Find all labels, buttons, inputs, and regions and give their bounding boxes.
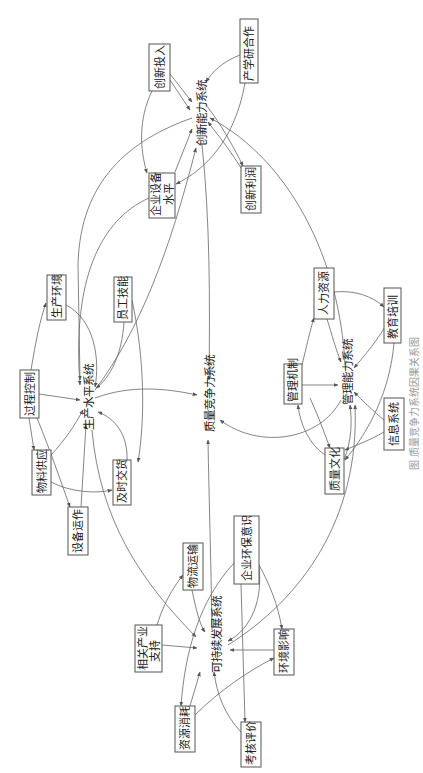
edge-innov-to-quality xyxy=(202,145,209,380)
edge-equip-to-innov xyxy=(175,129,192,172)
management-system-label: 管理能力系统 xyxy=(341,338,355,405)
svg-text:创新利润: 创新利润 xyxy=(244,167,258,211)
svg-text:生产环境: 生产环境 xyxy=(50,274,64,318)
node-env-awareness: 企业环保意识 xyxy=(234,515,259,584)
edge-info-to-culture xyxy=(345,432,384,450)
svg-text:资源消耗: 资源消耗 xyxy=(178,706,192,750)
svg-text:考核评价: 考核评价 xyxy=(244,721,258,765)
node-process-control: 过程控制 xyxy=(20,370,39,418)
edge-related-to-sustain xyxy=(162,645,197,648)
svg-text:相关产业: 相关产业 xyxy=(136,626,150,670)
node-info-system: 信息系统 xyxy=(384,398,404,450)
svg-text:过程控制: 过程控制 xyxy=(23,372,37,416)
svg-text:员工技能: 员工技能 xyxy=(116,276,130,320)
node-innovation-input: 创新投入 xyxy=(149,44,170,91)
svg-text:信息系统: 信息系统 xyxy=(387,402,401,446)
node-innovation-profit: 创新利润 xyxy=(241,166,261,213)
edge-prod-to-innov xyxy=(95,148,196,390)
edge-assess-to-sustain xyxy=(214,672,241,732)
edge-equipop-to-prod xyxy=(81,425,86,507)
node-on-time-delivery: 及时交货 xyxy=(113,459,131,505)
svg-text:企业环保意识: 企业环保意识 xyxy=(240,515,254,581)
node-resource-consumption: 资源消耗 xyxy=(175,706,195,752)
svg-text:水平: 水平 xyxy=(163,183,176,205)
node-staff-skill: 员工技能 xyxy=(114,276,132,322)
node-equipment-level: 企业设备 水平 xyxy=(149,172,176,218)
node-equipment-operation: 设备运作 xyxy=(68,507,88,555)
svg-text:管理机制: 管理机制 xyxy=(286,358,300,402)
edge-delivery-to-prod xyxy=(98,412,127,460)
sustainable-system-label: 可持续发展系统 xyxy=(210,595,224,673)
edge-input-to-innov xyxy=(170,74,192,102)
svg-text:物料供应: 物料供应 xyxy=(35,449,49,493)
svg-text:教育培训: 教育培训 xyxy=(386,295,400,339)
edge-mgmt-to-innov xyxy=(210,118,345,365)
edge-skill-to-prod xyxy=(96,322,124,388)
edge-mgmt-to-quality xyxy=(220,400,341,437)
node-quality-culture: 质量文化 xyxy=(325,447,344,494)
node-human-resources: 人力资源 xyxy=(314,268,334,319)
node-env-impact: 环境影响 xyxy=(274,629,294,675)
edge-related-to-logistics xyxy=(157,575,183,625)
svg-text:及时交货: 及时交货 xyxy=(115,459,129,503)
edge-hr-to-training xyxy=(334,292,384,307)
edge-resource-to-sustain xyxy=(190,672,200,706)
node-logistics: 物流运输 xyxy=(183,543,203,590)
edge-pc-to-prod xyxy=(39,394,80,400)
edge-pc-to-env xyxy=(31,303,46,370)
edge-input-to-equip xyxy=(142,91,152,173)
node-related-industry: 相关产业 支持 xyxy=(135,625,162,672)
svg-text:创新投入: 创新投入 xyxy=(153,45,167,89)
edge-prod-to-sustain xyxy=(92,430,196,637)
production-system-label: 生产水平系统 xyxy=(82,363,96,430)
svg-text:物流运输: 物流运输 xyxy=(186,544,200,588)
svg-text:支持: 支持 xyxy=(148,640,162,662)
edge-aware-to-assess xyxy=(241,584,245,722)
system-labels: 质量竞争力系统 创新能力系统 生产水平系统 管理能力系统 可持续发展系统 xyxy=(82,79,355,673)
node-material-supply: 物料供应 xyxy=(32,449,51,495)
causal-loop-diagram: 质量竞争力系统 创新能力系统 生产水平系统 管理能力系统 可持续发展系统 创新投… xyxy=(0,0,423,773)
edge-iur-to-innov xyxy=(206,55,240,82)
node-assessment: 考核评价 xyxy=(241,721,261,767)
edge-culture-to-mgmt xyxy=(344,405,351,460)
svg-text:产学研合作: 产学研合作 xyxy=(242,26,256,81)
node-production-env: 生产环境 xyxy=(47,274,66,320)
edge-aware-to-impact xyxy=(259,565,282,629)
edge-prod-to-quality xyxy=(95,389,197,398)
edge-profit-to-innov xyxy=(208,122,241,168)
svg-text:人力资源: 人力资源 xyxy=(317,271,331,315)
edge-mech-to-hr xyxy=(302,318,314,365)
node-management-mechanism: 管理机制 xyxy=(284,358,302,404)
edge-innov-to-prod xyxy=(78,118,192,380)
svg-text:企业设备: 企业设备 xyxy=(149,172,163,216)
edge-culture-to-mech xyxy=(298,405,325,455)
edge-skill-to-delivery xyxy=(132,300,143,462)
node-industry-univ-research: 产学研合作 xyxy=(240,19,258,83)
edge-info-to-mgmt xyxy=(354,392,384,420)
edge-material-to-prod xyxy=(51,410,83,455)
edge-resource-to-impact xyxy=(195,658,274,715)
figure-caption: 图 质量竞争力系统因果关系图 xyxy=(408,337,420,470)
svg-text:环境影响: 环境影响 xyxy=(277,629,291,673)
node-education-training: 教育培训 xyxy=(384,288,401,343)
svg-text:设备运作: 设备运作 xyxy=(71,509,85,553)
center-system-label: 质量竞争力系统 xyxy=(203,354,217,432)
svg-text:质量文化: 质量文化 xyxy=(328,447,342,491)
edge-pc-to-material xyxy=(29,418,34,450)
innovation-system-label: 创新能力系统 xyxy=(195,79,209,146)
edge-hr-to-mgmt xyxy=(327,319,341,362)
